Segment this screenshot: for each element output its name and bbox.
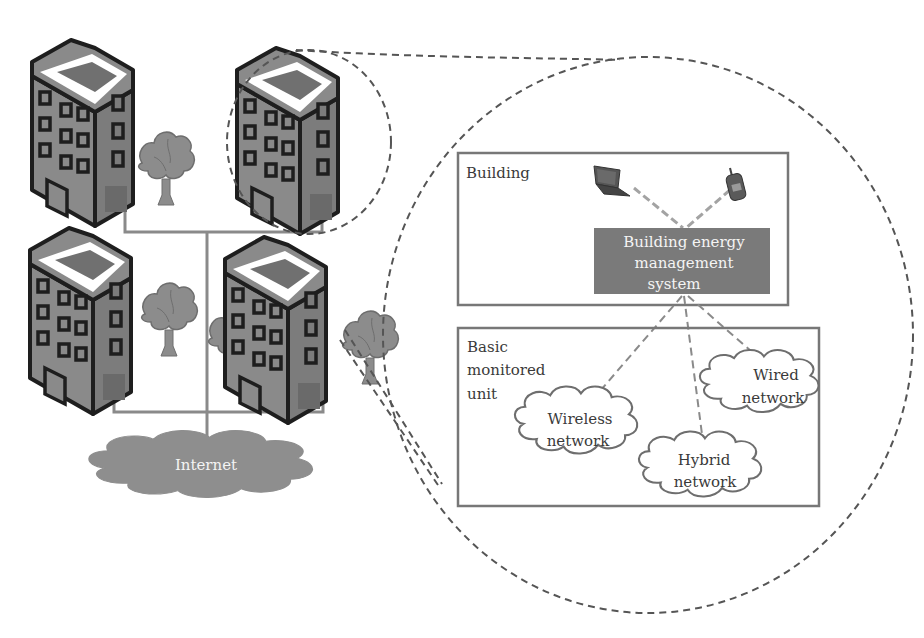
building-panel-label: Building (466, 164, 530, 182)
building-panel: Building Building energy (458, 153, 788, 305)
bems-label-line-1: Building energy (623, 233, 745, 251)
building-icon-highlighted (237, 48, 338, 234)
wired-network-line-1: Wired (753, 366, 799, 384)
internet-cloud: Internet (89, 430, 312, 497)
tree-icon (142, 283, 198, 356)
campus-network: Internet (30, 40, 398, 498)
detail-view: Building Building energy (458, 153, 819, 506)
bems-network-diagram: Internet Building (0, 0, 924, 638)
wired-network-line-2: network (742, 389, 806, 407)
tree-icon (343, 311, 399, 384)
hybrid-network-cloud: Hybrid network (639, 432, 761, 497)
unit-panel-label-line-3: unit (467, 385, 497, 403)
bems-box: Building energy management system (594, 228, 770, 294)
unit-panel: Basic monitored unit Wireless network Wi… (458, 328, 819, 506)
detail-ellipse (383, 57, 913, 613)
bems-label-line-2: management (634, 254, 733, 272)
wired-network-cloud: Wired network (700, 350, 819, 412)
hybrid-network-line-1: Hybrid (678, 451, 731, 469)
unit-panel-label-line-1: Basic (467, 338, 508, 356)
zoom-connector-bottom-2 (345, 330, 442, 484)
building-icon (30, 228, 131, 414)
building-icon (32, 40, 133, 226)
wireless-network-line-1: Wireless (547, 410, 612, 428)
hybrid-network-line-2: network (674, 473, 738, 491)
wireless-network-cloud: Wireless network (515, 386, 637, 453)
bems-label-line-3: system (648, 275, 701, 293)
tree-icon (139, 132, 195, 205)
zoom-connector-bottom (340, 340, 440, 488)
building-icon (225, 237, 326, 423)
wireless-network-line-2: network (547, 432, 611, 450)
unit-panel-label-line-2: monitored (467, 361, 546, 379)
internet-label: Internet (175, 456, 237, 474)
